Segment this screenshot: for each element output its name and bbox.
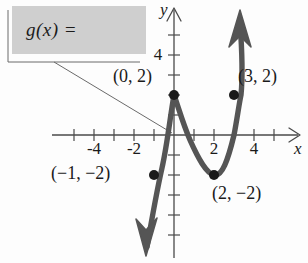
function-callout-box: g(x) = bbox=[12, 6, 146, 54]
point-3-2 bbox=[229, 90, 239, 100]
function-callout-label: g(x) = bbox=[26, 19, 77, 41]
point-neg1-neg2 bbox=[149, 170, 159, 180]
point-label-2-neg2: (2, −2) bbox=[212, 183, 261, 204]
graph-figure: g(x) = x y -4 -2 2 4 4 (0, 2) (3, 2) (−1… bbox=[0, 0, 308, 263]
curve-arrow-down bbox=[136, 218, 157, 256]
x-tick-label-4: 4 bbox=[246, 139, 262, 159]
x-tick-label-2: 2 bbox=[206, 139, 222, 159]
point-2-neg2 bbox=[209, 170, 219, 180]
y-axis-name: y bbox=[160, 0, 168, 20]
x-tick-label-neg2: -2 bbox=[120, 139, 148, 159]
point-label-3-2: (3, 2) bbox=[238, 66, 277, 87]
y-tick-label-4: 4 bbox=[150, 45, 166, 65]
x-tick-label-neg4: -4 bbox=[80, 139, 108, 159]
x-axis-name: x bbox=[294, 139, 302, 159]
point-label-neg1-neg2: (−1, −2) bbox=[51, 163, 110, 184]
point-0-2 bbox=[169, 90, 179, 100]
point-label-0-2: (0, 2) bbox=[113, 66, 152, 87]
